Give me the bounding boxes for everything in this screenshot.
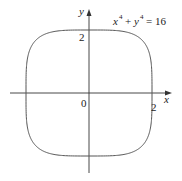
equation-label: x 4 + y 4 = 16 xyxy=(112,13,166,27)
y-axis-arrow-icon xyxy=(87,9,92,16)
svg-text:4: 4 xyxy=(140,13,144,21)
svg-text:4: 4 xyxy=(119,13,123,21)
x-tick-label: 2 xyxy=(151,101,157,113)
superellipse-diagram: y 2 0 2 x x 4 + y 4 = 16 xyxy=(0,0,182,181)
origin-label: 0 xyxy=(81,97,87,109)
y-axis-label: y xyxy=(78,5,84,17)
svg-text:+: + xyxy=(125,15,131,27)
x-axis-label: x xyxy=(163,93,169,105)
y-tick-label: 2 xyxy=(79,31,85,43)
svg-text:= 16: = 16 xyxy=(146,15,166,27)
svg-text:y: y xyxy=(133,15,139,27)
svg-text:x: x xyxy=(112,15,118,27)
